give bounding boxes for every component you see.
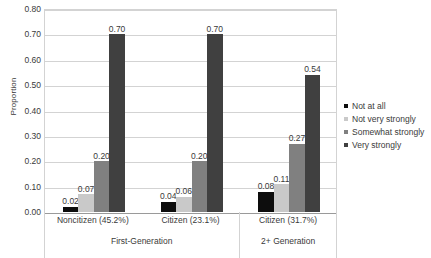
category-axis-edge: [44, 212, 45, 258]
bar-value-label: 0.20: [191, 152, 208, 161]
legend-label: Not very strongly: [352, 115, 416, 124]
bar[interactable]: 0.08: [258, 192, 274, 212]
y-axis-tick-label: 0.20: [8, 156, 41, 166]
legend-item[interactable]: Very strongly: [344, 139, 431, 151]
bar-value-label: 0.11: [273, 175, 289, 184]
chart-legend: Not at allNot very stronglySomewhat stro…: [344, 100, 431, 152]
bar-value-label: 0.04: [160, 192, 177, 201]
bar-group: 0.020.070.200.70: [63, 10, 125, 212]
legend-swatch-icon: [344, 130, 348, 134]
legend-swatch-icon: [344, 104, 348, 108]
bar[interactable]: 0.11: [274, 184, 290, 212]
y-axis-tick-label: 0.00: [8, 207, 41, 217]
legend-label: Somewhat strongly: [352, 128, 424, 137]
bar-value-label: 0.08: [258, 182, 275, 191]
bar-group: 0.080.110.270.54: [258, 10, 320, 212]
y-axis-tick-labels: 0.800.700.600.500.400.300.200.100.00: [8, 0, 41, 258]
category-axis: Noncitizen (45.2%)Citizen (23.1%)Citizen…: [44, 212, 337, 258]
y-axis-tick-label: 0.40: [8, 106, 41, 116]
y-axis-tick-label: 0.50: [8, 80, 41, 90]
y-axis-tick-label: 0.60: [8, 55, 41, 65]
y-axis-tick-label: 0.30: [8, 131, 41, 141]
legend-item[interactable]: Somewhat strongly: [344, 126, 431, 138]
legend-item[interactable]: Not at all: [344, 100, 431, 112]
category-separator: [239, 212, 240, 258]
supercategory-label: 2+ Generation: [239, 236, 337, 246]
plot-area: 0.020.070.200.700.040.060.200.700.080.11…: [44, 9, 337, 212]
bar-value-label: 0.54: [304, 65, 321, 74]
y-axis-tick-label: 0.70: [8, 29, 41, 39]
category-label: Citizen (23.1%): [142, 215, 240, 225]
bar[interactable]: 0.07: [78, 194, 94, 212]
legend-label: Very strongly: [352, 141, 401, 150]
legend-swatch-icon: [344, 117, 348, 121]
bar-value-label: 0.70: [206, 25, 223, 34]
category-axis-edge: [336, 212, 337, 258]
bar-value-label: 0.02: [62, 197, 79, 206]
supercategory-label: First-Generation: [44, 236, 239, 246]
bar-value-label: 0.20: [93, 152, 110, 161]
legend-item[interactable]: Not very strongly: [344, 113, 431, 125]
legend-label: Not at all: [352, 102, 386, 111]
bar-group: 0.040.060.200.70: [161, 10, 223, 212]
legend-swatch-icon: [344, 143, 348, 147]
bar[interactable]: 0.27: [289, 144, 305, 213]
bar[interactable]: 0.04: [161, 202, 177, 212]
category-label: Citizen (31.7%): [239, 215, 337, 225]
bar-chart: Proportion 0.800.700.600.500.400.300.200…: [0, 0, 431, 258]
bar[interactable]: 0.20: [192, 161, 208, 212]
bar[interactable]: 0.54: [305, 75, 321, 212]
bar-value-label: 0.06: [175, 187, 192, 196]
y-axis-tick-label: 0.10: [8, 182, 41, 192]
bars-layer: 0.020.070.200.700.040.060.200.700.080.11…: [45, 10, 336, 212]
bar-value-label: 0.27: [289, 134, 306, 143]
bar-value-label: 0.07: [78, 185, 95, 194]
category-label: Noncitizen (45.2%): [44, 215, 142, 225]
bar[interactable]: 0.70: [207, 34, 223, 212]
y-axis-tick-label: 0.80: [8, 4, 41, 14]
bar[interactable]: 0.70: [109, 34, 125, 212]
bar-value-label: 0.70: [109, 25, 126, 34]
bar[interactable]: 0.06: [176, 197, 192, 212]
bar[interactable]: 0.20: [94, 161, 110, 212]
